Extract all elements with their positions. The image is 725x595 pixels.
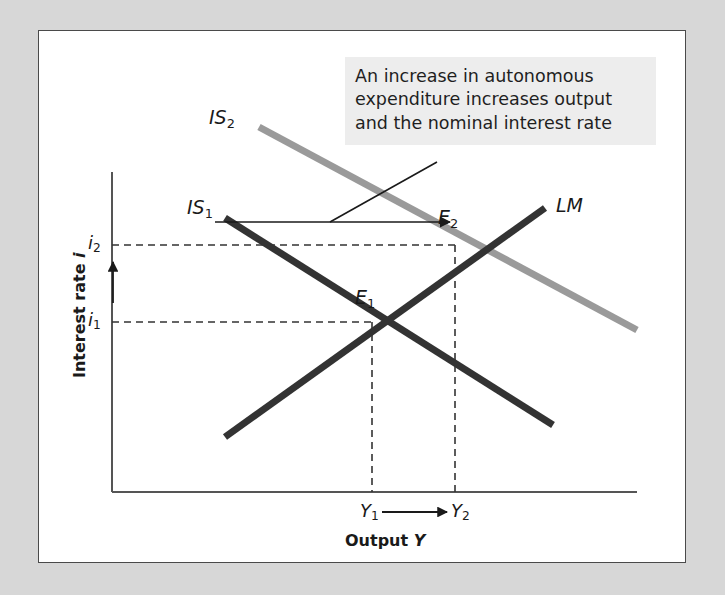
tick-label-Y1-text: Y: [360, 500, 371, 521]
y-axis-title-prefix: Interest rate: [70, 258, 89, 378]
tick-label-Y1-sub: 1: [371, 509, 379, 523]
y-axis-title-symbol: i: [70, 252, 89, 257]
tick-label-i1-sub: 1: [93, 318, 101, 332]
callout-line-3: and the nominal interest rate: [355, 112, 646, 135]
curve-label-IS2: IS2: [209, 108, 235, 131]
curve-label-IS1-text: IS: [187, 196, 205, 218]
x-axis-title-prefix: Output: [345, 531, 414, 550]
tick-label-Y1: Y1: [360, 502, 379, 523]
point-label-E1-text: E: [355, 286, 367, 308]
point-label-E2: E2: [438, 208, 458, 231]
point-label-E1: E1: [355, 288, 375, 311]
tick-label-Y2: Y2: [451, 502, 470, 523]
figure-root: An increase in autonomous expenditure in…: [0, 0, 725, 595]
callout-line-1: An increase in autonomous: [355, 65, 646, 88]
x-axis-title: Output Y: [345, 533, 425, 549]
point-label-E2-sub: 2: [450, 216, 458, 231]
y-axis-title: Interest rate i: [72, 252, 88, 378]
point-label-E1-sub: 1: [367, 296, 375, 311]
tick-label-i1: i1: [88, 311, 101, 332]
tick-label-i2: i2: [88, 234, 101, 255]
curve-label-IS2-sub: 2: [227, 116, 235, 131]
point-label-E2-text: E: [438, 206, 450, 228]
callout-annotation: An increase in autonomous expenditure in…: [345, 57, 656, 145]
tick-label-Y2-text: Y: [451, 500, 462, 521]
tick-label-Y2-sub: 2: [462, 509, 470, 523]
curve-label-IS2-text: IS: [209, 106, 227, 128]
curve-label-IS1-sub: 1: [205, 206, 213, 221]
tick-label-i2-sub: 2: [93, 241, 101, 255]
curve-label-LM: LM: [556, 196, 583, 215]
callout-line-2: expenditure increases output: [355, 88, 646, 111]
curve-label-LM-text: LM: [556, 194, 583, 216]
curve-label-IS1: IS1: [187, 198, 213, 221]
x-axis-title-symbol: Y: [414, 531, 426, 550]
